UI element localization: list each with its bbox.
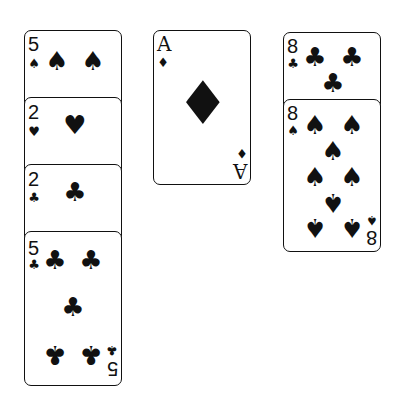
spade-icon: ♠ <box>303 215 326 241</box>
club-icon: ♣ <box>303 44 326 70</box>
card-rank: 5 <box>28 34 39 54</box>
spade-icon: ♠ <box>340 215 363 241</box>
heart-icon: ♥ <box>28 125 40 138</box>
club-icon: ♣ <box>106 344 118 357</box>
spade-icon: ♠ <box>340 164 363 190</box>
card-rank: 2 <box>28 169 39 189</box>
club-icon: ♣ <box>28 191 40 204</box>
spade-icon: ♠ <box>321 138 344 164</box>
club-icon: ♣ <box>321 70 344 96</box>
diamond-icon: ♦ <box>157 56 169 69</box>
card-rank: 2 <box>28 102 39 122</box>
club-icon: ♣ <box>63 179 86 205</box>
club-icon: ♣ <box>287 57 299 70</box>
card-rank: 8 <box>287 36 298 56</box>
diamond-icon: ♦ <box>236 147 248 160</box>
club-icon: ♣ <box>79 247 102 273</box>
club-icon: ♣ <box>43 342 66 368</box>
club-icon: ♣ <box>61 294 84 320</box>
card-rank-inverted: 8 <box>366 228 377 248</box>
spade-icon: ♠ <box>303 164 326 190</box>
club-icon: ♣ <box>28 258 40 271</box>
card-rank: 5 <box>28 238 39 258</box>
spade-icon: ♠ <box>366 214 378 227</box>
card-5-clubs[interactable]: 5 ♣ ♣ ♣ ♣ ♣ ♣ ♣ 5 <box>24 231 122 386</box>
card-rank: 8 <box>287 103 298 123</box>
card-rank: A <box>157 34 171 54</box>
spade-icon: ♠ <box>81 48 104 74</box>
spade-icon: ♠ <box>303 112 326 138</box>
card-ace-diamonds[interactable]: A ♦ ♦ ♦ A <box>153 30 251 185</box>
club-icon: ♣ <box>79 342 102 368</box>
spade-icon: ♠ <box>28 57 40 70</box>
club-icon: ♣ <box>340 44 363 70</box>
heart-icon: ♥ <box>63 112 86 138</box>
spade-icon: ♠ <box>340 112 363 138</box>
club-icon: ♣ <box>43 247 66 273</box>
spade-icon: ♠ <box>287 124 299 137</box>
card-8-spades[interactable]: 8 ♠ ♠ ♠ ♠ ♠ ♠ ♠ ♠ ♠ ♠ 8 <box>283 99 381 252</box>
card-rank-inverted: 5 <box>107 359 118 379</box>
diamond-icon: ♦ <box>176 73 230 133</box>
card-rank-inverted: A <box>233 161 247 181</box>
spade-icon: ♠ <box>45 48 68 74</box>
